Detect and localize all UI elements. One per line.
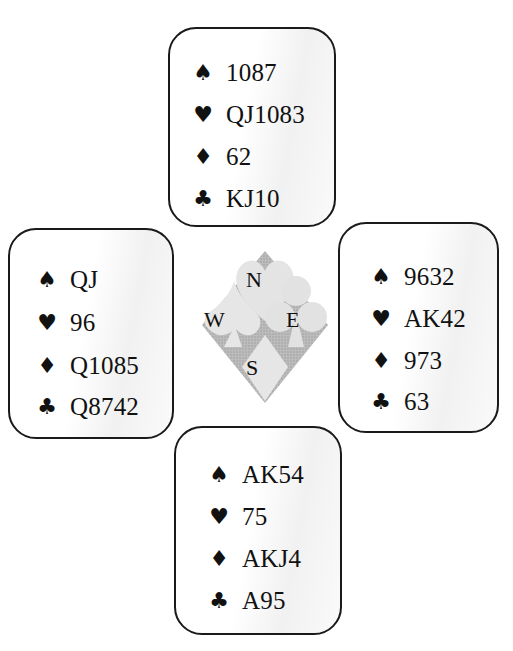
club-icon: ♣: [34, 396, 60, 418]
east-spades: 9632: [404, 263, 455, 291]
west-hearts: 96: [70, 309, 95, 337]
spade-icon: ♠: [368, 266, 394, 288]
east-diamonds-row: ♦ 973: [368, 341, 442, 381]
west-clubs-row: ♣ Q8742: [34, 387, 139, 427]
west-diamonds-row: ♦ Q1085: [34, 346, 139, 386]
east-hearts-row: ♥ AK42: [368, 299, 466, 339]
north-clubs-row: ♣ KJ10: [190, 179, 280, 219]
west-clubs: Q8742: [70, 393, 139, 421]
heart-icon: ♥: [206, 506, 232, 528]
diamond-icon: ♦: [368, 350, 394, 372]
east-clubs-row: ♣ 63: [368, 382, 429, 422]
north-spades-row: ♠ 1087: [190, 53, 277, 93]
spade-icon: ♠: [206, 464, 232, 486]
south-hearts-row: ♥ 75: [206, 497, 267, 537]
east-clubs: 63: [404, 388, 429, 416]
west-spades: QJ: [70, 266, 98, 294]
diamond-icon: ♦: [34, 355, 60, 377]
heart-icon: ♥: [190, 104, 216, 126]
east-hearts: AK42: [404, 305, 466, 333]
diamond-icon: ♦: [190, 146, 216, 168]
compass-emblem: N W E S: [200, 243, 330, 408]
club-icon: ♣: [206, 590, 232, 612]
south-diamonds-row: ♦ AKJ4: [206, 539, 301, 579]
south-diamonds: AKJ4: [242, 545, 301, 573]
south-hearts: 75: [242, 503, 267, 531]
compass-south-label: S: [246, 355, 258, 381]
north-hearts: QJ1083: [226, 101, 305, 129]
north-hearts-row: ♥ QJ1083: [190, 95, 305, 135]
compass-west-label: W: [204, 307, 225, 333]
club-icon: ♣: [190, 188, 216, 210]
south-spades: AK54: [242, 461, 304, 489]
north-diamonds: 62: [226, 143, 251, 171]
spade-icon: ♠: [190, 62, 216, 84]
spade-icon: ♠: [34, 269, 60, 291]
west-spades-row: ♠ QJ: [34, 260, 98, 300]
compass-east-label: E: [286, 307, 299, 333]
south-clubs-row: ♣ A95: [206, 581, 286, 621]
heart-icon: ♥: [368, 308, 394, 330]
north-spades: 1087: [226, 59, 277, 87]
west-hearts-row: ♥ 96: [34, 303, 95, 343]
diamond-icon: ♦: [206, 548, 232, 570]
heart-icon: ♥: [34, 312, 60, 334]
north-diamonds-row: ♦ 62: [190, 137, 251, 177]
south-clubs: A95: [242, 587, 286, 615]
compass-north-label: N: [246, 267, 262, 293]
club-icon: ♣: [368, 391, 394, 413]
west-diamonds: Q1085: [70, 352, 139, 380]
east-diamonds: 973: [404, 347, 442, 375]
east-hand: ♠ 9632 ♥ AK42 ♦ 973 ♣ 63: [338, 222, 499, 433]
south-spades-row: ♠ AK54: [206, 455, 304, 495]
south-hand: ♠ AK54 ♥ 75 ♦ AKJ4 ♣ A95: [174, 426, 342, 635]
north-hand: ♠ 1087 ♥ QJ1083 ♦ 62 ♣ KJ10: [168, 27, 336, 227]
north-clubs: KJ10: [226, 185, 280, 213]
east-spades-row: ♠ 9632: [368, 257, 455, 297]
west-hand: ♠ QJ ♥ 96 ♦ Q1085 ♣ Q8742: [8, 228, 174, 439]
